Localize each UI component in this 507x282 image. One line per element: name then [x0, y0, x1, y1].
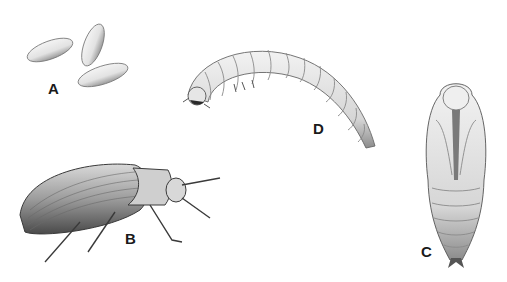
beetle-drawing [20, 164, 220, 262]
label-d: D [313, 120, 324, 137]
life-cycle-illustration: A B C D [0, 0, 507, 282]
pupa-drawing [426, 84, 486, 268]
label-b: B [125, 230, 136, 247]
larva-drawing [183, 50, 375, 148]
illustration-art [0, 0, 507, 282]
egg-icon [77, 21, 109, 69]
eggs-group [24, 21, 130, 91]
label-c: C [421, 243, 432, 260]
label-a: A [48, 80, 59, 97]
egg-icon [24, 33, 75, 66]
